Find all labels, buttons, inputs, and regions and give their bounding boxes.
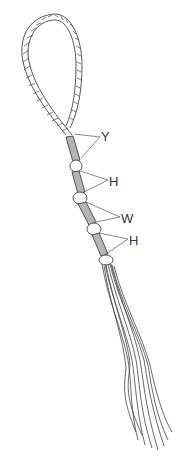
braided-loop	[22, 14, 82, 135]
cord-stem	[66, 136, 113, 265]
label-H-lower: H	[129, 234, 138, 247]
label-W: W	[121, 212, 133, 225]
label-Y: Y	[101, 130, 110, 143]
tassel-strands	[102, 264, 172, 450]
braided-cord-diagram	[0, 0, 190, 464]
label-H-upper: H	[109, 175, 118, 188]
